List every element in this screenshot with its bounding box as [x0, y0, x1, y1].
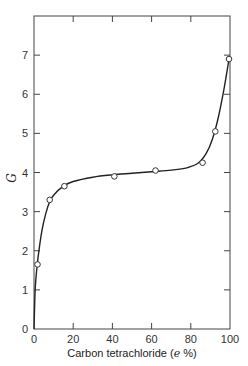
x-axis-title: Carbon tetrachloride (e %): [67, 347, 196, 360]
plot-frame: [34, 16, 230, 329]
data-point: [153, 168, 159, 174]
y-tick-label: 7: [22, 49, 28, 61]
data-point: [213, 129, 219, 135]
y-tick-label: 5: [22, 127, 28, 139]
y-axis-ticks: 01234567: [22, 49, 230, 335]
y-tick-label: 4: [22, 167, 28, 179]
data-markers: [35, 56, 232, 267]
data-point: [226, 56, 232, 62]
x-axis-ticks: 020406080100: [31, 16, 239, 345]
x-tick-label: 40: [106, 333, 118, 345]
data-point: [62, 183, 68, 189]
data-point: [47, 197, 53, 203]
chart: 020406080100 01234567 Carbon tetrachlori…: [0, 0, 248, 366]
x-tick-label: 100: [221, 333, 239, 345]
x-tick-label: 80: [185, 333, 197, 345]
x-tick-label: 0: [31, 333, 37, 345]
y-tick-label: 3: [22, 206, 28, 218]
data-point: [112, 174, 118, 180]
y-axis-title: G: [5, 173, 19, 183]
y-tick-label: 1: [22, 284, 28, 296]
data-point: [200, 160, 206, 166]
x-tick-label: 20: [67, 333, 79, 345]
fitted-curve: [34, 59, 229, 329]
x-tick-label: 60: [145, 333, 157, 345]
y-tick-label: 6: [22, 88, 28, 100]
y-tick-label: 2: [22, 245, 28, 257]
data-point: [35, 262, 41, 268]
y-tick-label: 0: [22, 323, 28, 335]
